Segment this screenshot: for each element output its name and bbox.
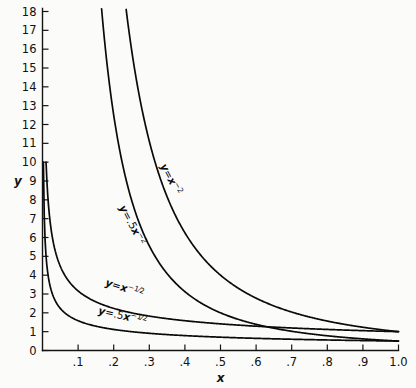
x-tick-label: .5 bbox=[215, 355, 226, 369]
y-tick-label: 18 bbox=[22, 5, 37, 19]
y-tick-label: 3 bbox=[29, 287, 36, 301]
curve-label: y=.5x−2 bbox=[117, 202, 149, 247]
chart-figure: 0123456789101112131415161718 .1.2.3.4.5.… bbox=[0, 0, 416, 388]
y-tick-label: 5 bbox=[29, 249, 36, 263]
curve-label: y=x−2 bbox=[158, 161, 185, 197]
x-tick-label: .8 bbox=[322, 355, 333, 369]
x-tick-label: .2 bbox=[108, 355, 119, 369]
y-tick-label: 4 bbox=[29, 268, 36, 282]
y-tick-label: 0 bbox=[29, 344, 36, 358]
y-tick-label: 16 bbox=[22, 42, 37, 56]
y-tick-label: 15 bbox=[22, 61, 37, 75]
y-tick-label: 8 bbox=[29, 193, 36, 207]
x-tick-label: .1 bbox=[73, 355, 84, 369]
x-tick-label: .3 bbox=[144, 355, 155, 369]
x-axis-ticks: .1.2.3.4.5.6.7.8.91.0 bbox=[73, 345, 408, 369]
y-tick-label: 12 bbox=[22, 118, 37, 132]
curve-label: y=.5x−1⁄2 bbox=[97, 303, 148, 327]
x-axis-label: x bbox=[216, 371, 226, 385]
y-tick-label: 14 bbox=[22, 80, 37, 94]
y-tick-label: 17 bbox=[22, 23, 37, 37]
curve-labels-group: y=x−2y=.5x−2y=x−1⁄2y=.5x−1⁄2 bbox=[97, 161, 185, 327]
curve-label-text: y=x−1⁄2 bbox=[104, 275, 146, 300]
curve-label-text: y=.5x−2 bbox=[117, 202, 149, 247]
y-tick-label: 1 bbox=[29, 325, 36, 339]
curve-label-text: y=x−2 bbox=[158, 161, 185, 197]
plot-area: 0123456789101112131415161718 .1.2.3.4.5.… bbox=[0, 0, 416, 388]
y-axis-label: y bbox=[14, 174, 23, 188]
curves-group bbox=[43, 9, 398, 341]
x-tick-label: 1.0 bbox=[389, 355, 407, 369]
y-tick-label: 13 bbox=[22, 99, 37, 113]
y-tick-label: 2 bbox=[29, 306, 36, 320]
curve-label-text: y=.5x−1⁄2 bbox=[97, 303, 148, 327]
x-tick-label: .6 bbox=[251, 355, 262, 369]
y-tick-label: 6 bbox=[29, 231, 36, 245]
y-tick-label: 11 bbox=[22, 136, 37, 150]
curve-y-5x-2 bbox=[102, 9, 399, 341]
x-tick-label: .9 bbox=[357, 355, 368, 369]
y-tick-label: 10 bbox=[22, 155, 37, 169]
x-tick-label: .7 bbox=[286, 355, 297, 369]
y-tick-label: 7 bbox=[29, 212, 36, 226]
curve-label: y=x−1⁄2 bbox=[104, 275, 146, 300]
y-tick-label: 9 bbox=[29, 174, 36, 188]
x-tick-label: .4 bbox=[179, 355, 190, 369]
